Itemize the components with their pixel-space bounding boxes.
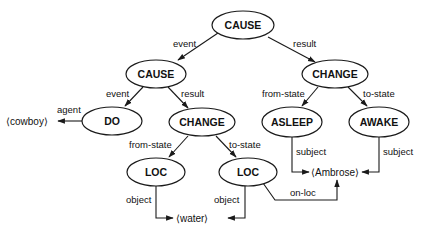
node-cause-sub: CAUSE — [126, 60, 186, 88]
edge-label: object — [214, 194, 240, 205]
node-label: LOC — [237, 166, 260, 178]
node-change-mid: CHANGE — [169, 108, 235, 136]
edge-label: on-loc — [290, 187, 316, 198]
node-label: AWAKE — [360, 116, 399, 128]
edge-subject-awake — [362, 137, 379, 172]
node-label: CHANGE — [179, 116, 225, 128]
leaf-ambrose: ⟨Ambrose⟩ — [311, 167, 359, 178]
edge-object-left — [156, 186, 173, 218]
node-loc-right: LOC — [219, 158, 277, 186]
edge-label: subject — [383, 146, 413, 157]
diagram-canvas: event result event result agent from-sta… — [0, 0, 423, 232]
edge-label: from-state — [129, 139, 172, 150]
node-label: DO — [104, 115, 120, 127]
edge-label: agent — [57, 104, 81, 115]
node-label: CAUSE — [225, 19, 262, 31]
node-asleep: ASLEEP — [262, 107, 322, 137]
node-label: ASLEEP — [271, 116, 313, 128]
edge-from-state-mid — [169, 136, 188, 157]
node-label: CHANGE — [312, 68, 358, 80]
leaf-cowboy: ⟨cowboy⟩ — [6, 116, 48, 127]
edge-label: result — [293, 38, 317, 49]
edge-label: subject — [296, 146, 326, 157]
node-loc-left: LOC — [127, 158, 185, 186]
edge-label: to-state — [363, 88, 395, 99]
node-label: LOC — [145, 166, 168, 178]
node-change-right: CHANGE — [302, 60, 368, 88]
edge-label: result — [181, 88, 205, 99]
node-label: CAUSE — [138, 68, 175, 80]
node-cause-root: CAUSE — [212, 11, 274, 39]
edge-label: object — [126, 194, 152, 205]
node-do: DO — [82, 107, 142, 135]
edge-label: to-state — [229, 139, 261, 150]
edge-label: from-state — [262, 88, 305, 99]
edge-label: event — [106, 88, 130, 99]
edge-label: event — [173, 38, 197, 49]
node-awake: AWAKE — [349, 107, 409, 137]
leaf-water: ⟨water⟩ — [176, 213, 208, 224]
